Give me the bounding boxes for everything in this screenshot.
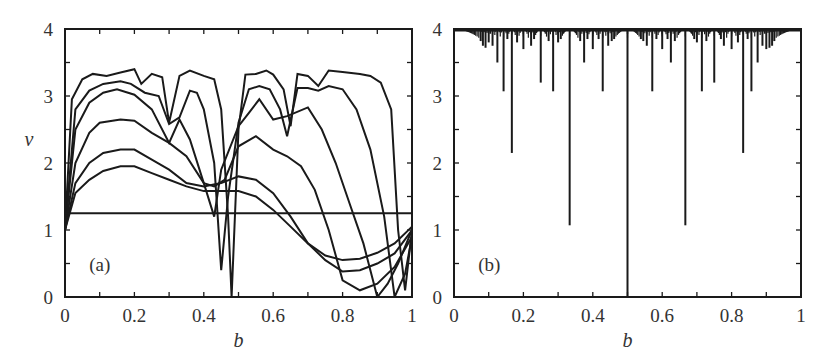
x-tick-label: 0.8 <box>720 305 744 326</box>
panel-label: (b) <box>478 254 500 276</box>
x-tick-label: 0.4 <box>192 305 216 326</box>
series-line-curve-2 <box>65 81 412 297</box>
x-tick-label: 0.6 <box>261 305 285 326</box>
x-tick-label: 0 <box>449 305 459 326</box>
x-tick-label: 0.6 <box>650 305 674 326</box>
y-tick-label: 2 <box>44 153 54 174</box>
series-group <box>65 69 412 297</box>
y-axis-label: v <box>25 128 34 150</box>
spike-group <box>454 29 801 297</box>
y-tick-label: 4 <box>44 19 54 40</box>
x-axis-label: b <box>623 329 633 351</box>
y-tick-label: 3 <box>44 86 54 107</box>
y-tick-label: 4 <box>433 19 443 40</box>
x-tick-label: 0 <box>60 305 70 326</box>
plot-frame <box>65 29 412 297</box>
x-tick-label: 0.2 <box>512 305 536 326</box>
panel-a-plot: 00.20.40.60.8101234bv(a) <box>25 19 417 351</box>
y-tick-label: 0 <box>44 287 54 308</box>
series-line-curve-1 <box>65 69 412 297</box>
x-tick-label: 1 <box>796 305 806 326</box>
x-tick-label: 0.4 <box>581 305 605 326</box>
x-axis-label: b <box>234 329 244 351</box>
x-tick-label: 0.8 <box>331 305 355 326</box>
figure: 00.20.40.60.8101234bv(a) 00.20.40.60.810… <box>0 0 836 355</box>
y-tick-label: 0 <box>433 287 443 308</box>
x-tick-label: 1 <box>407 305 417 326</box>
panel-label: (a) <box>89 254 110 276</box>
y-tick-label: 1 <box>44 220 54 241</box>
panel-b-plot: 00.20.40.60.8101234b(b) <box>433 19 806 351</box>
y-tick-label: 1 <box>433 220 443 241</box>
x-tick-label: 0.2 <box>123 305 147 326</box>
y-tick-label: 2 <box>433 153 443 174</box>
y-tick-label: 3 <box>433 86 443 107</box>
